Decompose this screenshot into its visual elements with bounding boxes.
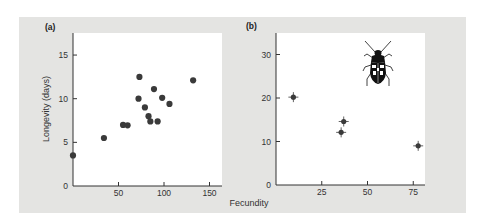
- data-point: [341, 119, 346, 124]
- y-tick-label: 0: [266, 180, 271, 190]
- data-point: [101, 135, 107, 141]
- y-tick-label: 10: [262, 137, 272, 147]
- data-point: [125, 122, 131, 128]
- data-point: [159, 95, 165, 101]
- data-point: [339, 130, 344, 135]
- x-tick-label: 150: [202, 188, 216, 198]
- x-tick-label: 25: [317, 187, 327, 197]
- data-point: [70, 152, 76, 158]
- x-tick-label: 75: [409, 187, 419, 197]
- chart-a: 051015 50100150 (a) Longevity (days): [41, 22, 222, 198]
- panel-label-b: (b): [246, 21, 257, 31]
- data-point: [151, 86, 157, 92]
- data-point: [155, 118, 161, 124]
- y-tick-label: 20: [262, 93, 272, 103]
- x-tick-label: 50: [114, 188, 124, 198]
- x-axis-title: Fecundity: [229, 198, 269, 208]
- y-tick-label: 0: [63, 181, 68, 191]
- data-point: [147, 118, 153, 124]
- y-tick-label: 10: [59, 94, 69, 104]
- plot-area-a: [73, 33, 222, 186]
- data-point: [291, 95, 296, 100]
- x-tick-label: 100: [157, 188, 171, 198]
- data-point: [135, 96, 141, 102]
- x-tick-label: 50: [363, 187, 373, 197]
- data-point: [190, 77, 196, 83]
- data-point: [166, 101, 172, 107]
- data-point: [416, 143, 421, 148]
- panel-label-a: (a): [45, 22, 56, 32]
- y-axis-title: Longevity (days): [41, 76, 51, 142]
- y-tick-label: 5: [63, 137, 68, 147]
- chart-b: 0102030 255075 (b): [246, 21, 425, 197]
- data-point: [142, 104, 148, 110]
- plot-area-b: [276, 33, 425, 185]
- figure: 051015 50100150 (a) Longevity (days) 010…: [0, 0, 478, 221]
- data-point: [136, 74, 142, 80]
- y-tick-label: 30: [262, 50, 272, 60]
- y-tick-label: 15: [59, 50, 69, 60]
